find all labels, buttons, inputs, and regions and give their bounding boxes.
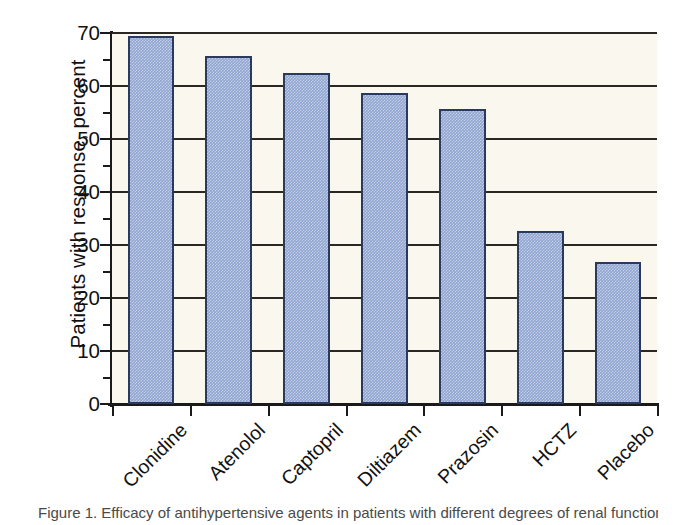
bar [128, 36, 175, 404]
y-axis-tick-label: 30 [54, 235, 100, 256]
x-axis-tick [346, 404, 348, 416]
bar [283, 73, 330, 404]
y-axis-tick-label: 70 [54, 23, 100, 44]
x-axis-tick [423, 404, 425, 416]
y-axis-tick-minor [103, 218, 111, 220]
bar [517, 231, 564, 404]
y-axis-tick-minor [103, 377, 111, 379]
y-axis-tick-label: 0 [54, 394, 100, 415]
x-axis-tick [501, 404, 503, 416]
y-axis-tick-label: 50 [54, 129, 100, 150]
y-axis-tick-label: 40 [54, 182, 100, 203]
y-axis-tick-major [100, 191, 111, 193]
y-axis-tick-labels: 010203040506070 [54, 0, 100, 516]
y-axis-tick-minor [103, 165, 111, 167]
gridline [112, 85, 657, 87]
y-axis-tick-major [100, 350, 111, 352]
x-axis-tick [579, 404, 581, 416]
bar [361, 93, 408, 404]
figure-caption: Figure 1. Efficacy of antihypertensive a… [38, 504, 658, 521]
y-axis-tick-major [100, 138, 111, 140]
gridline [112, 32, 657, 34]
y-axis-tick-major [100, 32, 111, 34]
y-axis-tick-minor [103, 271, 111, 273]
y-axis-tick-label: 10 [54, 341, 100, 362]
y-axis-tick-label: 20 [54, 288, 100, 309]
x-axis-tick [112, 404, 114, 416]
y-axis-tick-minor [103, 324, 111, 326]
y-axis-tick-minor [103, 59, 111, 61]
x-axis-tick [190, 404, 192, 416]
bar [439, 109, 486, 404]
bar [595, 262, 642, 404]
y-axis-tick-label: 60 [54, 76, 100, 97]
y-axis-tick-minor [103, 112, 111, 114]
y-axis-tick-major [100, 297, 111, 299]
y-axis-tick-major [100, 403, 111, 405]
x-axis-tick [657, 404, 659, 416]
x-axis-tick [268, 404, 270, 416]
y-axis-tick-major [100, 85, 111, 87]
y-axis-tick-major [100, 244, 111, 246]
bar [205, 56, 252, 404]
